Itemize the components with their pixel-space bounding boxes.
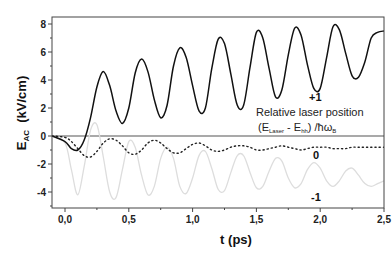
y-axis-title-units: (kV/cm) — [14, 76, 29, 123]
y-tick-label: -4 — [37, 187, 46, 198]
y-tick-label: -2 — [37, 159, 46, 170]
series-line-minus1 — [52, 123, 384, 200]
x-tick-label: 0,0 — [58, 214, 72, 225]
svg-text:EAC (kV/cm): EAC (kV/cm) — [14, 76, 31, 150]
x-axis-title: t (ps) — [220, 232, 252, 247]
y-tick-labels: -4-202468 — [37, 19, 46, 198]
x-tick-labels: 0,00,51,01,52,02,5 — [58, 214, 391, 225]
x-tick-label: 2,5 — [377, 214, 391, 225]
y-axis-title-main: E — [14, 141, 29, 150]
y-axis-title-sub: AC — [22, 130, 31, 142]
y-tick-label: 0 — [40, 131, 46, 142]
y-axis-title: EAC (kV/cm) — [14, 76, 31, 150]
chart: 0,00,51,01,52,02,5 -4-202468 t (ps) EAC … — [0, 0, 392, 253]
series-label-0: 0 — [313, 149, 319, 161]
y-tick-label: 6 — [40, 47, 46, 58]
x-tick-label: 1,0 — [186, 214, 200, 225]
x-tick-label: 1,5 — [249, 214, 263, 225]
x-tick-label: 2,0 — [313, 214, 327, 225]
y-tick-label: 4 — [40, 75, 46, 86]
legend-title-line1: Relative laser position — [256, 106, 364, 118]
y-tick-label: 8 — [40, 19, 46, 30]
series-label-minus1: -1 — [311, 191, 321, 203]
series-label-plus1: +1 — [309, 91, 322, 103]
y-tick-label: 2 — [40, 103, 46, 114]
x-tick-label: 0,5 — [122, 214, 136, 225]
legend-annotation: Relative laser position (ELaser - Ehh) /… — [256, 106, 364, 134]
legend-title-line2: (ELaser - Ehh) /ħωB — [258, 121, 336, 134]
